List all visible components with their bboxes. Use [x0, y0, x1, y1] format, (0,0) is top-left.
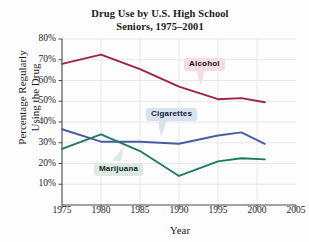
series-label-marijuana: Marijuana [94, 163, 143, 176]
callout-tail [158, 120, 167, 137]
series-line-marijuana [62, 134, 265, 176]
series-line-cigarettes [62, 129, 265, 144]
callout-tail [112, 146, 124, 161]
chart-figure: Drug Use by U.S. High School Seniors, 19… [0, 0, 309, 242]
series-line-alcohol [62, 55, 265, 103]
callout-tail [196, 70, 205, 86]
plot-area [0, 0, 309, 242]
series-label-alcohol: Alcohol [184, 58, 225, 71]
series-label-cigarettes: Cigarettes [146, 108, 197, 121]
